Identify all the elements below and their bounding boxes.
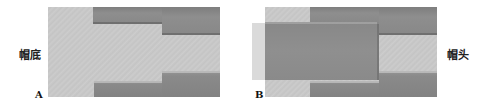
panel-a-upper-shoulder-left <box>93 7 162 24</box>
panel-a-letter: A <box>35 89 43 100</box>
panel-b-tenon-outside <box>252 23 265 80</box>
panel-b-lower-shoulder-right <box>379 71 437 97</box>
panel-b-letter: B <box>255 89 263 100</box>
panel-b-side-label: 帽头 <box>447 46 469 62</box>
panel-a-side-label: 帽底 <box>19 46 41 62</box>
panel-b-lower-shoulder-left <box>310 81 379 97</box>
panel-b-tenon-inside <box>265 22 379 80</box>
panel-b-upper-shoulder-right <box>379 7 437 35</box>
panel-a-lower-shoulder-right <box>162 71 220 97</box>
panel-a-upper-shoulder-right <box>162 7 220 35</box>
panel-b: B 帽头 <box>238 0 478 104</box>
panel-a-lower-shoulder-left <box>94 81 162 97</box>
panel-a: 帽底 A <box>0 0 238 104</box>
